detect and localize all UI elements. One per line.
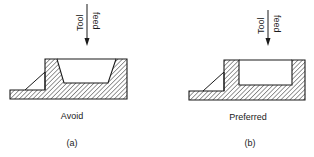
rib-a: [25, 72, 45, 90]
panel-a: Tool feed Avoid (a): [10, 4, 127, 148]
part-section-b: [189, 60, 305, 100]
arrow-down-icon: [266, 38, 271, 46]
rib-b: [203, 72, 224, 91]
arrow-label-feed-a: feed: [91, 12, 101, 30]
tool-feed-arrow-a: [85, 4, 90, 46]
sublabel-b: (b): [245, 138, 256, 148]
tool-feed-arrow-b: [266, 10, 271, 46]
arrow-label-tool-b: Tool: [256, 17, 266, 34]
caption-preferred: Preferred: [229, 112, 267, 122]
caption-avoid: Avoid: [61, 111, 83, 121]
part-section-a: [10, 59, 127, 99]
arrow-down-icon: [85, 38, 90, 46]
panel-b: Tool feed Preferred (b): [189, 10, 305, 148]
figure-canvas: Tool feed Avoid (a) Tool feed Preferred …: [0, 0, 314, 157]
arrow-label-feed-b: feed: [272, 15, 282, 33]
arrow-label-tool-a: Tool: [75, 14, 85, 31]
sublabel-a: (a): [67, 138, 78, 148]
